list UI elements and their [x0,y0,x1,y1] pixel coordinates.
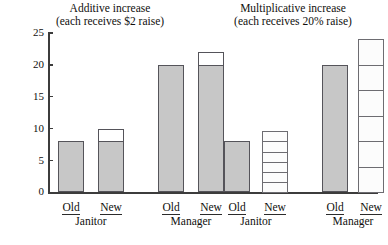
bar-label-multiplicative-janitor-new: New [250,201,300,213]
y-axis-tick-label: 20 [4,59,44,70]
y-axis-tick [48,160,53,161]
y-axis-tick-label: 15 [4,91,44,102]
y-axis-tick-label-wrap: 0 [0,186,44,197]
bar-additive-manager-new-increase [198,52,224,66]
panel-title-multiplicative-line1: Multiplicative increase [208,2,378,15]
bar-additive-janitor-new-base [98,141,124,192]
bar-multiplicative-manager-new-segment [358,167,384,194]
bar-label-text: Old [62,201,79,215]
bar-additive-manager-old [158,65,184,193]
y-axis-tick-label-wrap: 15 [0,91,44,102]
bar-additive-janitor-old [58,141,84,192]
bar-label-text: New [264,201,286,215]
bar-multiplicative-manager-new-segment [358,116,384,143]
group-label-additive-janitor: Janitor [46,215,136,227]
bar-label-text: Old [326,201,343,215]
y-axis-tick-label-wrap: 25 [0,27,44,38]
bar-multiplicative-janitor-old [224,141,250,192]
y-axis-tick [48,192,53,193]
bar-label-text: New [100,201,122,215]
bar-label-text: Old [162,201,179,215]
group-label-multiplicative-janitor: Janitor [211,215,301,227]
y-axis-tick [48,96,53,97]
bar-additive-janitor-new-increase [98,129,124,143]
bar-label-multiplicative-manager-new: New [346,201,388,213]
group-label-multiplicative-manager: Manager [308,215,388,227]
panel-title-additive-line1: Additive increase [30,2,190,15]
bar-label-text: Old [228,201,245,215]
y-axis-tick-label-wrap: 20 [0,59,44,70]
y-axis-line [48,33,50,193]
panel-title-multiplicative-line2: (each receives 20% raise) [208,15,378,28]
bar-multiplicative-janitor-new-segment [262,182,288,193]
bar-label-additive-janitor-new: New [86,201,136,213]
x-axis-baseline [48,192,378,194]
y-axis-tick-label: 0 [4,186,44,197]
bar-label-text: New [360,201,382,215]
bar-multiplicative-manager-new-segment [358,90,384,117]
y-axis-tick [48,32,53,33]
bar-multiplicative-manager-old [322,65,348,193]
y-axis-tick-label: 5 [4,155,44,166]
bar-multiplicative-manager-new-segment [358,39,384,66]
y-axis-tick-label: 25 [4,27,44,38]
panel-title-additive-line2: (each receives $2 raise) [30,15,190,28]
y-axis-tick-label-wrap: 5 [0,155,44,166]
panel-title-multiplicative: Multiplicative increase (each receives 2… [208,2,378,28]
y-axis-tick [48,128,53,129]
bar-additive-manager-new-base [198,65,224,193]
bar-multiplicative-manager-new-segment [358,141,384,168]
y-axis-tick-label-wrap: 10 [0,123,44,134]
y-axis-tick [48,64,53,65]
bar-multiplicative-manager-new-segment [358,65,384,92]
y-axis-tick-label: 10 [4,123,44,134]
panel-title-additive: Additive increase (each receives $2 rais… [30,2,190,28]
